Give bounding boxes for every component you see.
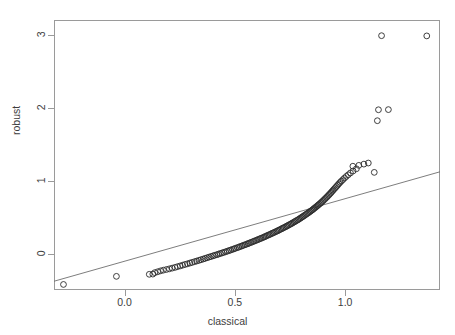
scatter-plot-figure: 01230.00.51.0 robust classical <box>0 0 455 335</box>
reference-line <box>54 172 440 281</box>
y-axis-title: robust <box>10 106 22 135</box>
data-points-group <box>61 33 430 288</box>
data-point <box>376 107 382 113</box>
data-point <box>371 169 377 175</box>
data-point <box>114 273 120 279</box>
x-axis-title: classical <box>0 315 455 327</box>
data-point <box>385 107 391 113</box>
data-point <box>61 282 67 288</box>
data-point <box>424 33 430 39</box>
data-point <box>379 33 385 39</box>
data-layer <box>0 0 455 335</box>
data-point <box>374 118 380 124</box>
